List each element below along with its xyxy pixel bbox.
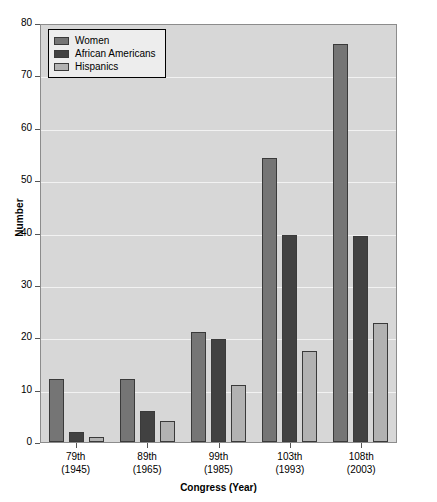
y-axis-tick-mark: [35, 129, 40, 130]
x-axis-label-line: (1965): [111, 463, 182, 476]
x-axis-label-line: 108th: [326, 450, 397, 463]
x-axis-tick-marks: [40, 443, 397, 448]
y-axis-tick-label: 70: [21, 69, 32, 80]
bar: [120, 379, 135, 442]
x-axis-label-line: 103th: [254, 450, 325, 463]
y-axis-tick-mark: [35, 391, 40, 392]
x-axis-tick-mark: [147, 443, 148, 448]
x-axis-labels: 79th(1945)89th(1965)99th(1985)103th(1993…: [40, 450, 397, 476]
bar: [333, 44, 348, 442]
y-axis-tick-mark: [35, 338, 40, 339]
y-axis-tick-label: 10: [21, 384, 32, 395]
bar: [262, 158, 277, 442]
bar-group: [191, 25, 246, 442]
y-axis-tick-label: 60: [21, 122, 32, 133]
y-axis-tick-label: 30: [21, 279, 32, 290]
x-axis-tick-mark: [76, 443, 77, 448]
x-axis-label: 99th(1985): [183, 450, 254, 476]
legend-item-label: Hispanics: [75, 61, 118, 72]
bar: [69, 432, 84, 442]
x-axis-label-line: 79th: [40, 450, 111, 463]
bar-chart: Number WomenAfrican AmericansHispanics 7…: [0, 0, 437, 502]
bar: [140, 411, 155, 442]
x-axis-tick-mark: [361, 443, 362, 448]
bar: [211, 339, 226, 442]
bar: [353, 236, 368, 442]
bar: [373, 323, 388, 442]
bar: [231, 385, 246, 442]
y-axis-tick-label: 20: [21, 331, 32, 342]
x-axis-tick-mark: [290, 443, 291, 448]
bar-group: [49, 25, 104, 442]
legend-item-label: Women: [75, 35, 109, 46]
plot-area: [40, 24, 397, 443]
y-axis-tick-mark: [35, 443, 40, 444]
y-axis-tick-label: 50: [21, 174, 32, 185]
bar: [191, 332, 206, 442]
x-axis-label-line: (2003): [326, 463, 397, 476]
x-axis-title: Congress (Year): [40, 482, 397, 493]
x-axis-label-line: 89th: [111, 450, 182, 463]
y-axis-title: Number: [14, 178, 25, 258]
x-axis-label-line: (1945): [40, 463, 111, 476]
y-axis-tick-mark: [35, 181, 40, 182]
chart-legend: WomenAfrican AmericansHispanics: [48, 29, 166, 78]
y-axis-tick-mark: [35, 234, 40, 235]
bar: [282, 235, 297, 442]
x-axis-label: 108th(2003): [326, 450, 397, 476]
legend-swatch-icon: [54, 63, 69, 71]
legend-swatch-icon: [54, 37, 69, 45]
y-axis-tick-mark: [35, 24, 40, 25]
legend-item: Hispanics: [54, 60, 156, 73]
x-axis-label-line: (1993): [254, 463, 325, 476]
bars-layer: [41, 25, 396, 442]
y-axis-tick-label: 40: [21, 227, 32, 238]
legend-item: African Americans: [54, 47, 156, 60]
bar: [160, 421, 175, 442]
legend-item-label: African Americans: [75, 48, 156, 59]
bar: [89, 437, 104, 442]
x-axis-label: 103th(1993): [254, 450, 325, 476]
bar-group: [262, 25, 317, 442]
x-axis-label: 79th(1945): [40, 450, 111, 476]
y-axis-tick-mark: [35, 76, 40, 77]
legend-item: Women: [54, 34, 156, 47]
legend-swatch-icon: [54, 50, 69, 58]
x-axis-label: 89th(1965): [111, 450, 182, 476]
x-axis-tick-mark: [219, 443, 220, 448]
x-axis-label-line: (1985): [183, 463, 254, 476]
bar-group: [333, 25, 388, 442]
bar: [302, 351, 317, 442]
y-axis-tick-mark: [35, 286, 40, 287]
y-axis-tick-label: 0: [26, 436, 32, 447]
bar-group: [120, 25, 175, 442]
y-axis-tick-label: 80: [21, 17, 32, 28]
x-axis-label-line: 99th: [183, 450, 254, 463]
bar: [49, 379, 64, 442]
